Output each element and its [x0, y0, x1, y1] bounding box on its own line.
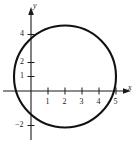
y-tick-label-negative-2: −2 — [15, 121, 24, 129]
y-axis-label: y — [33, 2, 37, 10]
y-axis — [28, 7, 34, 140]
x-tick-label-2: 2 — [63, 98, 67, 106]
y-tick-label-2: 2 — [20, 58, 24, 66]
x-tick-label-3: 3 — [80, 98, 84, 106]
x-tick-label-5: 5 — [114, 98, 118, 106]
x-tick-label-1: 1 — [46, 98, 50, 106]
circle-graph-figure: y x 1 2 3 4 5 4 2 1 −2 — [0, 0, 136, 144]
x-axis — [3, 88, 131, 94]
y-tick-label-1: 1 — [20, 72, 24, 80]
x-tick-label-4: 4 — [97, 98, 101, 106]
x-axis-label: x — [128, 84, 132, 92]
y-tick-label-4: 4 — [20, 30, 24, 38]
